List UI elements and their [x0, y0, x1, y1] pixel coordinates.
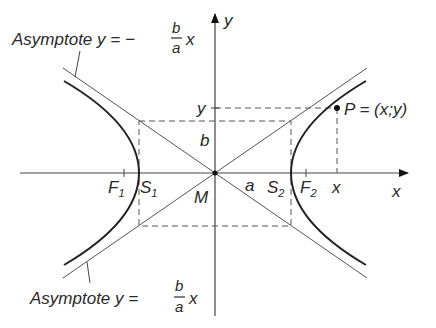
semi-axis-b-label: b — [200, 131, 209, 150]
svg-text:b: b — [175, 277, 183, 294]
hyperbola-diagram: y x y x b a M P = (x;y) F1 S1 S2 F2 Asym… — [0, 0, 436, 328]
semi-axis-a-label: a — [245, 176, 254, 195]
vertex-right-label: S2 — [267, 178, 284, 199]
svg-text:Asymptote y = −: Asymptote y = − — [11, 30, 135, 49]
y-tick-label: y — [196, 99, 207, 118]
y-axis-label: y — [223, 11, 234, 30]
svg-text:b: b — [172, 19, 180, 36]
center-label: M — [194, 188, 209, 207]
vertex-left-label: S1 — [140, 178, 157, 199]
x-tick-label: x — [331, 178, 341, 197]
asymptote-bottom-label: Asymptote y = b a x — [29, 277, 198, 315]
point-p-label: P = (x;y) — [344, 100, 407, 119]
svg-text:x: x — [185, 30, 195, 49]
asymptote-top-pointer — [75, 51, 80, 77]
center-point — [213, 171, 218, 176]
svg-text:a: a — [172, 39, 180, 56]
focus-right-label: F2 — [300, 178, 317, 199]
svg-text:x: x — [188, 289, 198, 308]
focus-left-label: F1 — [108, 178, 125, 199]
svg-text:Asymptote y =: Asymptote y = — [29, 289, 138, 308]
x-axis-label: x — [391, 182, 401, 201]
svg-text:a: a — [175, 298, 183, 315]
point-p — [334, 105, 340, 111]
asymptote-bottom-pointer — [87, 262, 90, 283]
asymptote-top-label: Asymptote y = − b a x — [11, 19, 195, 56]
